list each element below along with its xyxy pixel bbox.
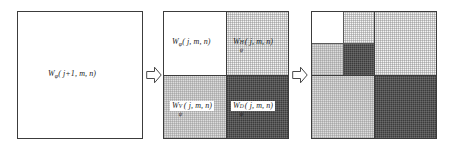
label-psi-subscript: ψ	[179, 112, 183, 118]
label-args: ( j, m, n)	[245, 101, 273, 110]
label-args: ( j, m, n)	[245, 37, 273, 46]
arrow-panel1-to-panel2	[146, 66, 162, 84]
quadrant-horizontal-detail-level2	[343, 12, 374, 43]
label-W-glyph: W	[233, 101, 240, 110]
label-W-glyph: W	[48, 69, 55, 78]
panel-one-level-decomposition	[163, 11, 289, 139]
label-psi-subscript: ψ	[240, 48, 244, 54]
label-W-glyph: W	[172, 37, 179, 46]
label-W-glyph: W	[172, 101, 179, 110]
label-psi-subscript: ψ	[240, 112, 244, 118]
label-vertical-detail-j: WVψ( j, m, n)	[170, 101, 214, 111]
panel3-horizontal-divider-outer	[312, 75, 436, 76]
panel2-horizontal-divider	[164, 75, 288, 76]
label-H-superscript: H	[240, 40, 244, 46]
label-diagonal-detail-j: WDψ( j, m, n)	[231, 101, 275, 111]
wavelet-decomposition-figure: Wφ( j+1, m, n) Wφ( j, m, n) WHψ( j, m, n…	[0, 0, 453, 152]
quadrant-approximation-level2	[312, 12, 343, 43]
panel3-horizontal-divider-inner	[312, 43, 374, 44]
quadrant-vertical-detail-level1	[312, 75, 374, 138]
quadrant-horizontal-detail-level1	[374, 12, 436, 75]
panel-two-level-decomposition	[311, 11, 437, 139]
quadrant-diagonal-detail-level2	[343, 43, 374, 75]
label-D-superscript: D	[240, 104, 244, 110]
label-W-glyph: W	[233, 37, 240, 46]
label-approximation-j: Wφ( j, m, n)	[172, 38, 211, 47]
label-args: ( j, m, n)	[182, 37, 210, 46]
label-approximation-j-plus-1: Wφ( j+1, m, n)	[48, 70, 96, 79]
label-args: ( j, m, n)	[184, 101, 212, 110]
quadrant-vertical-detail-level2	[312, 43, 343, 75]
label-horizontal-detail-j: WHψ( j, m, n)	[233, 38, 273, 46]
arrow-panel2-to-panel3	[292, 66, 308, 84]
label-V-superscript: V	[179, 104, 182, 110]
quadrant-diagonal-detail-level1	[374, 75, 436, 138]
label-args: ( j+1, m, n)	[58, 69, 96, 78]
